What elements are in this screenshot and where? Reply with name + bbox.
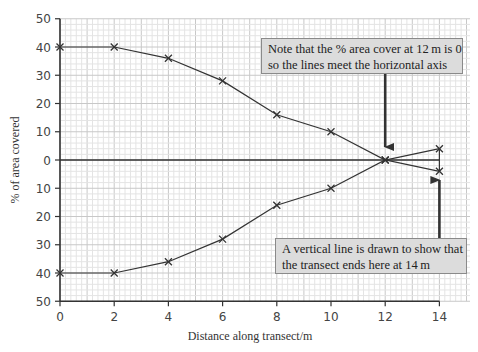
y-tick-label: 40 xyxy=(36,41,51,55)
x-tick-label: 0 xyxy=(56,310,64,324)
y-tick-label: 50 xyxy=(36,295,51,309)
x-tick-label: 12 xyxy=(378,310,393,324)
y-tick-label: 20 xyxy=(36,210,51,224)
annotation-note-12m: Note that the % area cover at 12 m is 0 … xyxy=(261,38,463,74)
annotation-line-2: the transect ends here at 14 m xyxy=(282,257,460,273)
x-tick-label: 10 xyxy=(323,310,338,324)
y-tick-label: 30 xyxy=(36,69,51,83)
y-tick-label: 0 xyxy=(43,154,51,168)
y-tick-label: 50 xyxy=(36,12,51,26)
x-tick-label: 14 xyxy=(432,310,447,324)
annotation-note-14m: A vertical line is drawn to show that th… xyxy=(275,238,467,274)
x-tick-label: 6 xyxy=(219,310,227,324)
y-tick-label: 10 xyxy=(36,125,51,139)
y-tick-label: 40 xyxy=(36,267,51,281)
y-axis-label: % of area covered xyxy=(8,117,22,204)
x-axis-label: Distance along transect/m xyxy=(188,329,313,343)
y-tick-label: 20 xyxy=(36,97,51,111)
annotation-line-1: A vertical line is drawn to show that xyxy=(282,241,460,257)
annotation-line-2: so the lines meet the horizontal axis xyxy=(268,57,456,73)
x-tick-label: 2 xyxy=(110,310,118,324)
annotation-line-1: Note that the % area cover at 12 m is 0 xyxy=(268,41,456,57)
y-tick-label: 30 xyxy=(36,238,51,252)
x-tick-label: 8 xyxy=(273,310,281,324)
x-tick-label: 4 xyxy=(165,310,173,324)
y-tick-label: 10 xyxy=(36,182,51,196)
